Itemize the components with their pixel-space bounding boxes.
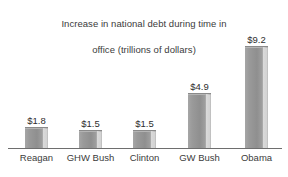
bar-group-reagan: $1.8 <box>25 128 48 148</box>
value-label-ghw-bush: $1.5 <box>81 118 100 129</box>
bar-group-gw-bush: $4.9 <box>188 94 211 148</box>
bar-bevel <box>263 47 268 148</box>
x-tick-label-ghw-bush: GHW Bush <box>62 152 119 163</box>
bar-gw-bush <box>188 93 211 148</box>
x-axis-line <box>8 148 282 149</box>
x-tick-label-obama: Obama <box>231 152 282 163</box>
x-tick-label-reagan: Reagan <box>11 152 62 163</box>
bar-group-clinton: $1.5 <box>133 131 156 148</box>
plot-area: $1.8 $1.5 $1.5 $4.9 <box>0 0 288 149</box>
bar-bevel <box>43 128 48 148</box>
x-tick-label-gw-bush: GW Bush <box>172 152 227 163</box>
x-tick-label-clinton: Clinton <box>119 152 170 163</box>
value-label-clinton: $1.5 <box>135 118 154 129</box>
bars-layer: $1.8 $1.5 $1.5 $4.9 <box>0 0 288 148</box>
bar-chart: Increase in national debt during time in… <box>0 0 288 177</box>
bar-reagan <box>25 127 48 148</box>
bar-group-ghw-bush: $1.5 <box>79 131 102 148</box>
value-label-reagan: $1.8 <box>27 115 46 126</box>
bar-bevel <box>151 131 156 148</box>
bar-obama <box>245 46 268 148</box>
bar-group-obama: $9.2 <box>245 47 268 148</box>
bar-ghw-bush <box>79 130 102 148</box>
bar-clinton <box>133 130 156 148</box>
value-label-obama: $9.2 <box>247 34 266 45</box>
bar-bevel <box>206 94 211 148</box>
bar-bevel <box>97 131 102 148</box>
value-label-gw-bush: $4.9 <box>190 81 209 92</box>
